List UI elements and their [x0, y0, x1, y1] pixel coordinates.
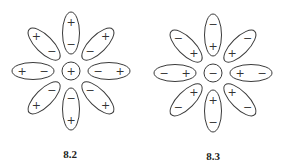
inner-sign: − — [93, 65, 102, 78]
outer-sign: − — [243, 101, 252, 114]
inner-sign: − — [66, 92, 75, 105]
outer-sign: + — [101, 99, 110, 112]
petal-lobe: +− — [165, 79, 207, 121]
inner-sign: − — [66, 38, 75, 51]
inner-sign: + — [189, 47, 198, 60]
petal-lobe: −+ — [23, 77, 65, 119]
inner-sign: + — [208, 40, 217, 53]
petal-lobe: +− — [154, 65, 196, 82]
petal-lobe: +− — [219, 25, 261, 67]
figure-label-8-3: 8.3 — [206, 150, 220, 162]
petal-lobe: +− — [205, 90, 222, 132]
petal-lobe: +− — [205, 14, 222, 56]
inner-sign: − — [47, 84, 56, 97]
outer-sign: + — [32, 30, 41, 43]
petal-lobe: −+ — [77, 23, 119, 65]
inner-sign: − — [85, 84, 94, 97]
petal-lobe: −+ — [77, 77, 119, 119]
outer-sign: − — [243, 32, 252, 45]
inner-sign: + — [208, 94, 217, 107]
petal-lobe: +− — [230, 65, 272, 82]
inner-sign: + — [235, 67, 244, 80]
petal-lobe: −+ — [12, 63, 54, 80]
inner-sign: − — [85, 45, 94, 58]
inner-sign: + — [181, 67, 190, 80]
petal-lobe: −+ — [23, 23, 65, 65]
outer-sign: − — [159, 67, 168, 80]
petal-lobe: −+ — [63, 88, 80, 130]
orbital-diagrams: +−+−+−+−+−+−+−+−+ −+−+−+−+−+−+−+−+− 8.2 … — [0, 0, 285, 166]
outer-sign: + — [101, 30, 110, 43]
inner-sign: + — [189, 86, 198, 99]
outer-sign: − — [174, 32, 183, 45]
center-sign: + — [66, 65, 75, 78]
outer-sign: − — [208, 116, 217, 129]
center-sign: − — [208, 67, 217, 80]
figure-8-2: +−+−+−+−+−+−+−+−+ — [12, 12, 130, 130]
outer-sign: + — [66, 16, 75, 29]
outer-sign: − — [208, 18, 217, 31]
outer-sign: + — [66, 114, 75, 127]
outer-sign: − — [174, 101, 183, 114]
outer-sign: + — [115, 65, 124, 78]
inner-sign: + — [227, 47, 236, 60]
outer-sign: − — [257, 67, 266, 80]
inner-sign: + — [227, 86, 236, 99]
outer-sign: + — [32, 99, 41, 112]
petal-lobe: −+ — [88, 63, 130, 80]
petal-lobe: −+ — [63, 12, 80, 54]
petal-lobe: +− — [219, 79, 261, 121]
inner-sign: − — [39, 65, 48, 78]
petal-lobe: +− — [165, 25, 207, 67]
figure-label-8-2: 8.2 — [63, 148, 77, 160]
inner-sign: − — [47, 45, 56, 58]
outer-sign: + — [17, 65, 26, 78]
figure-8-3: −+−+−+−+−+−+−+−+− — [154, 14, 272, 132]
